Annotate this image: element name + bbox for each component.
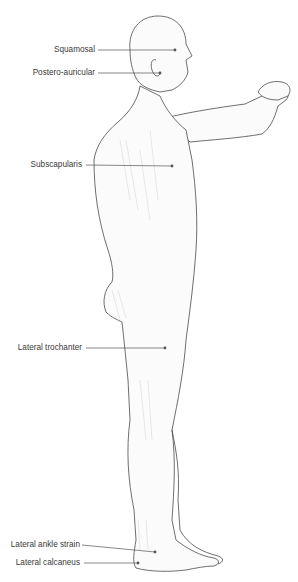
landmark-dot-squamosal — [174, 49, 177, 52]
landmark-dot-lateral-ankle-strain — [154, 551, 157, 554]
body-silhouette — [94, 16, 290, 571]
head — [130, 16, 192, 92]
landmark-dot-lateral-calcaneus — [137, 562, 140, 565]
label-postero-auricular: Postero-auricular — [33, 68, 95, 78]
label-lateral-calcaneus: Lateral calcaneus — [16, 558, 80, 568]
landmark-dot-postero-auricular — [159, 72, 162, 75]
label-subscapularis: Subscapularis — [31, 160, 82, 170]
landmark-dot-subscapularis — [171, 165, 174, 168]
label-lateral-ankle-strain: Lateral ankle strain — [11, 540, 80, 550]
label-squamosal: Squamosal — [54, 45, 95, 55]
torso — [94, 86, 219, 571]
label-lateral-trochanter: Lateral trochanter — [18, 343, 82, 353]
anatomical-figure — [0, 0, 298, 582]
landmark-dot-lateral-trochanter — [164, 347, 167, 350]
